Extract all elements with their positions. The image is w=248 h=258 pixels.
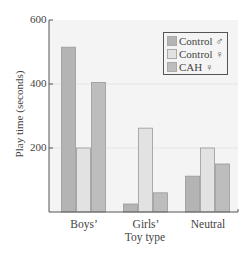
legend-label: CAH ♀ — [179, 61, 213, 73]
x-category-neutral: Neutral — [178, 218, 238, 230]
legend-label: Control ♀ — [179, 48, 224, 60]
legend-swatch-icon — [167, 62, 177, 72]
bar — [77, 148, 91, 212]
legend-item-control-female: Control ♀ — [167, 47, 224, 60]
x-axis-label: Toy type — [100, 231, 190, 243]
legend-swatch-icon — [167, 49, 177, 59]
y-tick-200: 200 — [30, 141, 47, 153]
legend-item-cah-female: CAH ♀ — [167, 60, 213, 73]
legend-item-control-male: Control ♂ — [167, 34, 224, 47]
bar — [186, 176, 200, 212]
legend-swatch-icon — [167, 36, 177, 46]
y-tick-600: 600 — [30, 13, 47, 25]
bar — [62, 47, 76, 212]
bar — [216, 164, 230, 212]
y-tick-400: 400 — [30, 77, 47, 89]
legend: Control ♂ Control ♀ CAH ♀ — [163, 32, 228, 75]
bar — [92, 82, 106, 212]
x-category-boys: Boys’ — [54, 218, 114, 230]
legend-label: Control ♂ — [179, 35, 224, 47]
bar — [124, 204, 138, 212]
x-category-girls: Girls’ — [116, 218, 176, 230]
bar — [201, 148, 215, 212]
bar — [154, 193, 168, 212]
bar — [139, 128, 153, 212]
bar-chart: 600 400 200 Play time (seconds) Boys’ Gi… — [0, 0, 248, 258]
y-axis-label: Play time (seconds) — [13, 69, 25, 159]
